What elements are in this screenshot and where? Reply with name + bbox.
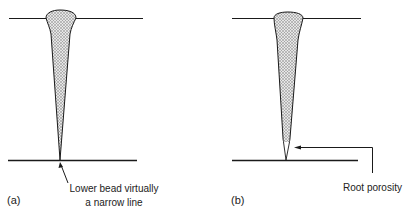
arrow-line-a — [61, 165, 68, 183]
weld-bead-a — [46, 10, 76, 160]
annotation-root-porosity: Root porosity — [343, 181, 402, 194]
panel-b — [232, 12, 373, 173]
weld-bead-b — [274, 12, 303, 144]
arrow-head-b — [294, 146, 301, 150]
root-porosity-void — [284, 142, 290, 160]
panel-a — [8, 10, 143, 183]
panel-b-tag: (b) — [231, 194, 244, 207]
annotation-lower-bead-line2: a narrow line — [62, 196, 166, 209]
arrow-head-a — [59, 162, 64, 168]
panel-a-tag: (a) — [7, 194, 20, 207]
annotation-lower-bead-line1: Lower bead virtually — [62, 182, 166, 195]
